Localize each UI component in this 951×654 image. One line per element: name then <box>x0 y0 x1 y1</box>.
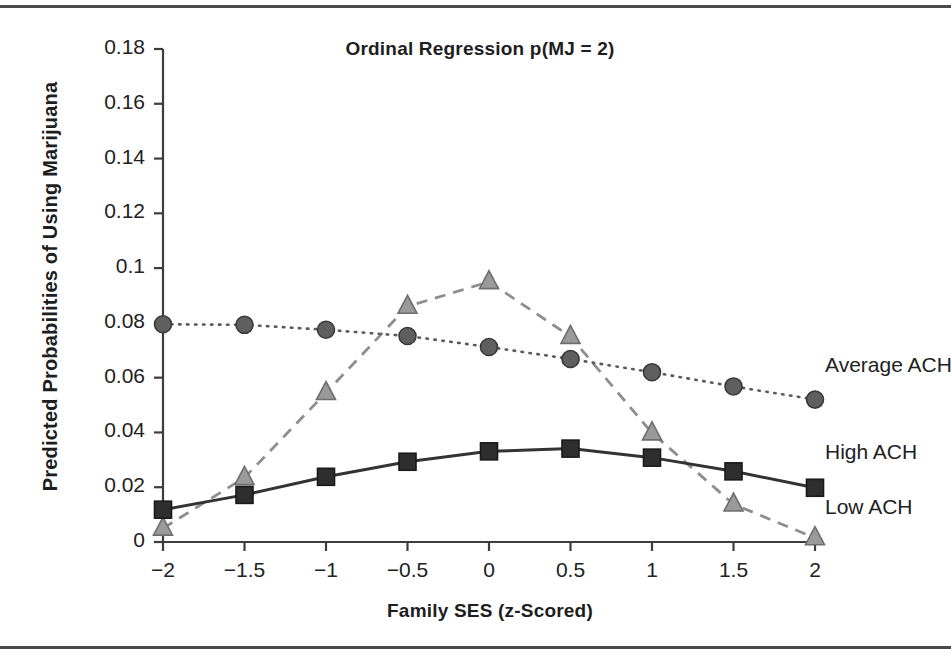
data-point-marker-high-ach <box>155 501 172 518</box>
y-tick-label: 0.16 <box>45 90 145 114</box>
data-point-marker-low-ach <box>317 382 336 400</box>
y-tick-label: 0.14 <box>45 145 145 169</box>
data-point-marker-average-ach <box>562 351 579 368</box>
data-point-marker-low-ach <box>398 295 417 313</box>
data-point-marker-low-ach <box>235 466 254 484</box>
data-point-marker-average-ach <box>481 338 498 355</box>
data-point-marker-high-ach <box>562 440 579 457</box>
data-point-marker-high-ach <box>725 463 742 480</box>
data-point-marker-low-ach <box>724 493 743 511</box>
y-tick-label: 0.02 <box>45 473 145 497</box>
y-tick-label: 0 <box>45 528 145 552</box>
data-point-marker-high-ach <box>236 486 253 503</box>
data-point-marker-high-ach <box>318 468 335 485</box>
y-tick-label: 0.12 <box>45 199 145 223</box>
data-point-marker-average-ach <box>155 316 172 333</box>
x-tick-label: −1.5 <box>210 558 280 582</box>
data-point-marker-average-ach <box>236 316 253 333</box>
y-tick-label: 0.08 <box>45 309 145 333</box>
data-point-marker-high-ach <box>807 479 824 496</box>
series-line-average-ach <box>163 324 815 399</box>
data-point-marker-high-ach <box>481 443 498 460</box>
data-point-marker-average-ach <box>399 328 416 345</box>
data-point-marker-average-ach <box>318 321 335 338</box>
series-label-low-ach: Low ACH <box>825 495 913 519</box>
y-tick-label: 0.18 <box>45 35 145 59</box>
x-tick-label: −1 <box>291 558 361 582</box>
x-tick-label: −2 <box>128 558 198 582</box>
y-tick-label: 0.06 <box>45 364 145 388</box>
data-point-marker-low-ach <box>480 271 499 289</box>
x-tick-label: 1.5 <box>699 558 769 582</box>
data-point-marker-high-ach <box>644 449 661 466</box>
y-tick-label: 0.1 <box>45 254 145 278</box>
data-point-marker-average-ach <box>725 378 742 395</box>
series-label-average-ach: Average ACH <box>825 353 951 377</box>
data-point-marker-low-ach <box>154 517 173 535</box>
data-point-marker-high-ach <box>399 453 416 470</box>
x-tick-label: 2 <box>780 558 850 582</box>
x-tick-label: 1 <box>617 558 687 582</box>
figure-panel: Ordinal Regression p(MJ = 2) Predicted P… <box>0 0 951 654</box>
y-tick-label: 0.04 <box>45 418 145 442</box>
series-line-low-ach <box>163 282 815 538</box>
x-tick-label: 0 <box>454 558 524 582</box>
data-point-marker-average-ach <box>644 364 661 381</box>
x-tick-label: 0.5 <box>536 558 606 582</box>
data-point-marker-low-ach <box>806 527 825 545</box>
x-tick-label: −0.5 <box>373 558 443 582</box>
data-point-marker-low-ach <box>561 325 580 343</box>
series-label-high-ach: High ACH <box>825 440 917 464</box>
data-point-marker-average-ach <box>807 391 824 408</box>
